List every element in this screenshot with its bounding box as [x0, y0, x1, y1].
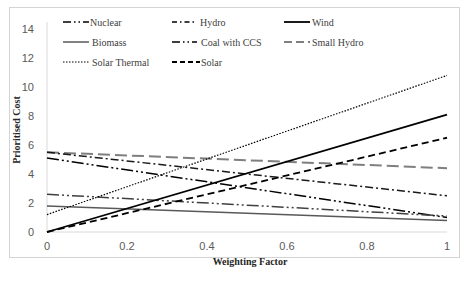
legend-label: Biomass — [92, 37, 127, 48]
y-tick: 8 — [28, 110, 34, 122]
legend-label: Solar — [201, 57, 223, 68]
legend-item-hydro: Hydro — [172, 17, 226, 28]
x-tick: 0.2 — [119, 240, 134, 252]
y-tick-labels: 0 2 4 6 8 10 12 14 — [22, 23, 34, 238]
y-tick: 10 — [22, 81, 34, 93]
y-tick: 2 — [28, 197, 34, 209]
legend-item-wind: Wind — [284, 17, 334, 28]
x-tick: 1 — [444, 240, 450, 252]
legend-label: Coal with CCS — [201, 37, 262, 48]
legend-label: Solar Thermal — [92, 57, 150, 68]
legend-item-coal-with-ccs: Coal with CCS — [172, 37, 262, 48]
legend-item-solar-thermal: Solar Thermal — [63, 57, 150, 68]
y-tick: 6 — [28, 139, 34, 151]
series-lines — [47, 75, 447, 232]
x-tick: 0.6 — [279, 240, 294, 252]
legend-item-biomass: Biomass — [63, 37, 127, 48]
legend-item-nuclear: Nuclear — [63, 17, 122, 28]
legend-label: Nuclear — [90, 17, 122, 28]
x-tick-labels: 0 0.2 0.4 0.6 0.8 1 — [44, 240, 450, 252]
legend-label: Wind — [312, 17, 334, 28]
y-axis-title: Prioritised Cost — [11, 96, 22, 164]
y-tick: 0 — [28, 226, 34, 238]
series-wind — [47, 115, 447, 232]
legend-label: Small Hydro — [312, 37, 363, 48]
x-tick: 0.4 — [199, 240, 214, 252]
x-tick: 0 — [44, 240, 50, 252]
y-tick: 12 — [22, 52, 34, 64]
y-tick: 14 — [22, 23, 34, 35]
legend: Nuclear Hydro Wind Biomass Coal with CCS… — [63, 17, 363, 68]
y-tick: 4 — [28, 168, 34, 180]
chart-svg: 0 2 4 6 8 10 12 14 0 0.2 0.4 0.6 0.8 1 W… — [0, 0, 464, 282]
legend-item-solar: Solar — [172, 57, 223, 68]
x-axis-title: Weighting Factor — [213, 256, 288, 267]
series-solar-thermal — [47, 75, 447, 214]
x-tick: 0.8 — [359, 240, 374, 252]
series-small-hydro — [47, 152, 447, 168]
legend-item-small-hydro: Small Hydro — [284, 37, 363, 48]
legend-label: Hydro — [200, 17, 226, 28]
